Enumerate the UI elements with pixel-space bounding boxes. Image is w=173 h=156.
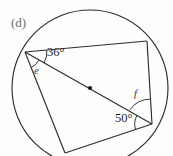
chord-topright-right (147, 41, 152, 124)
angle-label-50: 50° (115, 112, 133, 125)
angle-arc-f (130, 99, 151, 110)
circle-outline (12, 10, 168, 156)
angle-label-36: 36° (47, 46, 65, 59)
chord-left-topright (25, 41, 147, 52)
geometry-figure: (d) 36° e f 50° (0, 0, 173, 156)
chord-bottom-left (25, 52, 65, 153)
angle-label-f: f (134, 88, 137, 99)
angle-label-e: e (34, 65, 39, 76)
angle-arc-50 (135, 115, 137, 129)
part-label: (d) (11, 16, 26, 29)
centre-dot (88, 86, 92, 90)
